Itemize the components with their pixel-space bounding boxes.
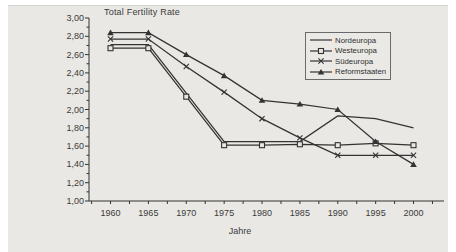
triangle-marker	[410, 161, 417, 167]
legend-entry-sdeuropa: Südeuropa	[309, 56, 387, 66]
x-marker	[222, 90, 227, 95]
legend-entry-westeuropa: Westeuropa	[309, 46, 387, 56]
x-marker	[259, 116, 264, 121]
x-marker	[184, 64, 189, 69]
plain-line-icon	[309, 35, 333, 45]
y-tick-label: 2,40	[66, 68, 84, 78]
y-tick-label: 1,40	[66, 159, 84, 169]
triangle-marker	[221, 73, 228, 79]
square-marker	[222, 143, 227, 148]
y-tick-label: 2,20	[66, 86, 84, 96]
triangle-line-icon	[309, 67, 333, 77]
y-tick-label: 2,00	[66, 105, 84, 115]
legend-label: Südeuropa	[335, 57, 373, 66]
x-marker	[297, 135, 302, 140]
legend-label: Nordeuropa	[335, 36, 376, 45]
square-marker	[184, 94, 189, 99]
triangle-marker	[183, 52, 190, 58]
scanned-document-page: 3,002,802,602,402,202,001,801,601,401,20…	[0, 0, 456, 252]
y-tick-label: 1,60	[66, 141, 84, 151]
x-tick-label: 2000	[403, 208, 423, 218]
x-tick-label: 1960	[100, 208, 120, 218]
y-tick-label: 2,60	[66, 50, 84, 60]
x-tick-label: 1980	[252, 208, 272, 218]
square-marker	[108, 46, 113, 51]
x-axis-title: Jahre	[170, 226, 310, 236]
x-tick-label: 1970	[176, 208, 196, 218]
legend-entry-nordeuropa: Nordeuropa	[309, 35, 387, 45]
y-tick-label: 2,80	[66, 31, 84, 41]
x-tick-label: 1965	[138, 208, 158, 218]
y-tick-label: 3,00	[66, 13, 84, 23]
square-marker	[260, 143, 265, 148]
y-tick-label: 1,20	[66, 178, 84, 188]
x-tick-label: 1990	[328, 208, 348, 218]
legend-label: Reformstaaten	[335, 67, 386, 76]
chart-title: Total Fertility Rate	[104, 7, 180, 17]
y-tick-label: 1,80	[66, 123, 84, 133]
x-tick-label: 1985	[290, 208, 310, 218]
chart-legend: NordeuropaWesteuropaSüdeuropaReformstaat…	[305, 32, 391, 80]
legend-entry-reformstaaten: Reformstaaten	[309, 67, 387, 77]
x-tick-label: 1975	[214, 208, 234, 218]
square-line-icon	[309, 46, 333, 56]
square-marker	[335, 143, 340, 148]
square-marker	[297, 142, 302, 147]
square-marker	[411, 143, 416, 148]
x-line-icon	[309, 56, 333, 66]
y-tick-label: 1,00	[66, 196, 84, 206]
square-marker	[146, 46, 151, 51]
square-marker	[319, 48, 324, 53]
x-tick-label: 1995	[366, 208, 386, 218]
legend-label: Westeuropa	[335, 46, 377, 55]
